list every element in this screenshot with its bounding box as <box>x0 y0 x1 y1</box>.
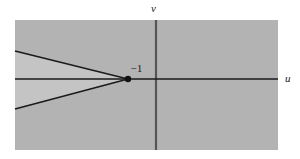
point-label-minus-one: −1 <box>131 64 142 75</box>
figure-container: v u −1 <box>0 0 300 159</box>
point-marker-minus-one <box>125 76 131 82</box>
uv-plane-plot <box>0 0 300 159</box>
v-axis-label: v <box>151 3 156 14</box>
u-axis-label: u <box>285 73 291 84</box>
